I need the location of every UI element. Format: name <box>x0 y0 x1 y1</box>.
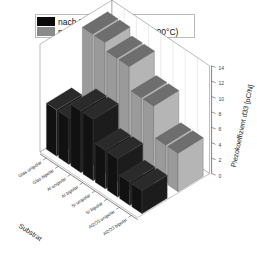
z-tick-label: 10 <box>219 96 225 102</box>
bar-face <box>107 152 117 197</box>
bar-face <box>168 146 178 191</box>
z-tick-label: 14 <box>219 65 225 71</box>
z-tick <box>212 66 216 68</box>
z-tick <box>212 112 216 114</box>
z-tick-label: 2 <box>219 157 222 163</box>
x-axis-title: Substrat <box>17 222 43 242</box>
z-tick-label: 8 <box>219 111 222 117</box>
bar-face <box>95 144 105 189</box>
bar-face <box>46 103 56 156</box>
x-tick <box>43 158 46 160</box>
z-tick <box>212 143 216 145</box>
x-tick <box>80 183 83 185</box>
3d-bar-chart: 02468101214Piezokoeffizient d33 [pC/N]Gl… <box>0 0 257 273</box>
x-category-label: Al bipolar <box>60 184 79 199</box>
x-tick <box>116 207 119 209</box>
bar-face <box>71 104 81 172</box>
bar-face <box>59 111 69 164</box>
z-tick <box>212 174 216 176</box>
z-tick <box>212 81 216 83</box>
z-tick <box>212 158 216 160</box>
z-tick <box>212 127 216 128</box>
z-axis-title: Piezokoeffizient d33 [pC/N] <box>230 84 255 168</box>
x-tick <box>68 175 71 177</box>
x-tick <box>55 166 58 168</box>
z-tick-label: 12 <box>219 80 225 86</box>
x-category-label: Al2O3 bipolar <box>102 217 128 237</box>
x-category-label: Si unipolar <box>71 192 92 208</box>
z-tick <box>212 97 216 99</box>
x-tick <box>129 216 132 218</box>
bar-face <box>83 112 93 180</box>
x-category-label: Al unipolar <box>46 176 67 192</box>
x-tick <box>104 199 107 201</box>
x-category-label: Glas bipolar <box>32 168 56 186</box>
z-tick-label: 4 <box>219 142 222 148</box>
x-category-label: Si bipolar <box>85 200 104 215</box>
z-tick-label: 6 <box>219 126 222 132</box>
x-tick <box>92 191 95 193</box>
z-tick-label: 0 <box>219 173 222 179</box>
